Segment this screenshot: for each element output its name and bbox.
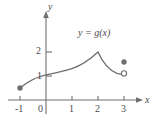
xtick-label-zero: 0 (38, 104, 43, 114)
closed-endpoint-left (17, 85, 22, 90)
xtick-label-two: 2 (95, 104, 100, 114)
xtick-label-minus-one: -1 (15, 104, 23, 114)
endpoint-markers (17, 59, 126, 90)
x-axis-name: x (145, 95, 149, 105)
function-curve (20, 52, 124, 88)
function-graph-figure: -1 0 1 2 3 1 2 x y y = g(x) (0, 0, 155, 125)
open-endpoint-right (121, 71, 126, 76)
xtick-label-three: 3 (121, 104, 126, 114)
closed-point-at-three (121, 59, 126, 64)
y-axis (43, 11, 49, 114)
xtick-label-one: 1 (69, 104, 74, 114)
y-axis-ticks (46, 52, 52, 76)
y-axis-name: y (48, 2, 52, 12)
x-axis (8, 97, 143, 103)
ytick-label-one: 1 (37, 71, 42, 81)
curve-equation-label: y = g(x) (78, 28, 110, 38)
x-axis-ticks (20, 96, 124, 100)
ytick-label-two: 2 (36, 46, 41, 56)
